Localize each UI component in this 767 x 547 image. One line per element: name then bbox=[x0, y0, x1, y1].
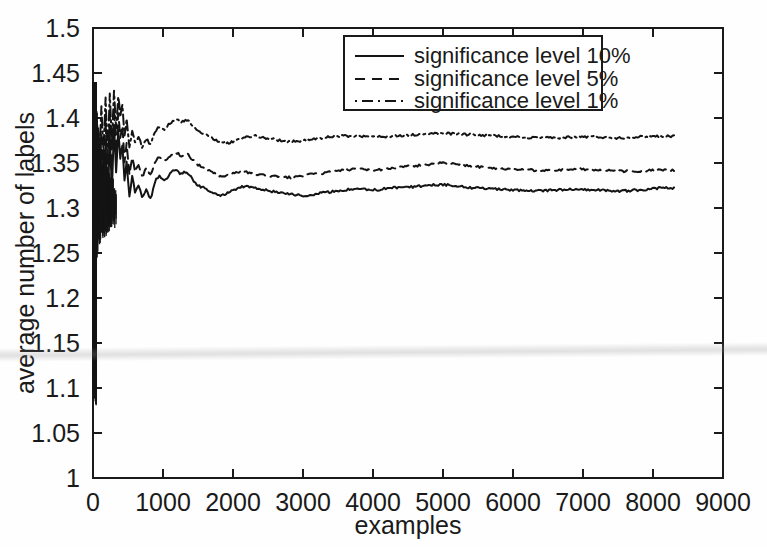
y-tick-label: 1.45 bbox=[31, 59, 80, 87]
x-tick-label: 7000 bbox=[555, 488, 611, 516]
y-axis-label: average number of labels bbox=[11, 112, 39, 394]
y-tick-label: 1.4 bbox=[45, 104, 80, 132]
y-tick-label: 1 bbox=[66, 464, 80, 492]
y-tick-label: 1.2 bbox=[45, 284, 80, 312]
x-tick-label: 6000 bbox=[485, 488, 541, 516]
legend-label-2: significance level 1% bbox=[414, 88, 618, 113]
chart-figure: 0100020003000400050006000700080009000 11… bbox=[0, 0, 767, 547]
x-tick-label: 2000 bbox=[205, 488, 261, 516]
y-tick-label: 1.5 bbox=[45, 14, 80, 42]
y-tick-label: 1.3 bbox=[45, 194, 80, 222]
x-tick-label: 8000 bbox=[625, 488, 681, 516]
x-tick-label: 3000 bbox=[275, 488, 331, 516]
y-tick-label: 1.05 bbox=[31, 419, 80, 447]
chart-canvas: 0100020003000400050006000700080009000 11… bbox=[0, 0, 767, 547]
x-tick-label: 1000 bbox=[135, 488, 191, 516]
x-axis-label: examples bbox=[355, 511, 462, 539]
legend-label-0: significance level 10% bbox=[414, 43, 630, 68]
series-line-0 bbox=[95, 125, 674, 323]
legend: significance level 10% significance leve… bbox=[344, 36, 630, 113]
x-tick-label: 9000 bbox=[695, 488, 751, 516]
series-line-2 bbox=[95, 91, 674, 265]
x-tick-label: 0 bbox=[86, 488, 100, 516]
y-tick-label: 1.1 bbox=[45, 374, 80, 402]
data-series-layer bbox=[95, 91, 674, 324]
